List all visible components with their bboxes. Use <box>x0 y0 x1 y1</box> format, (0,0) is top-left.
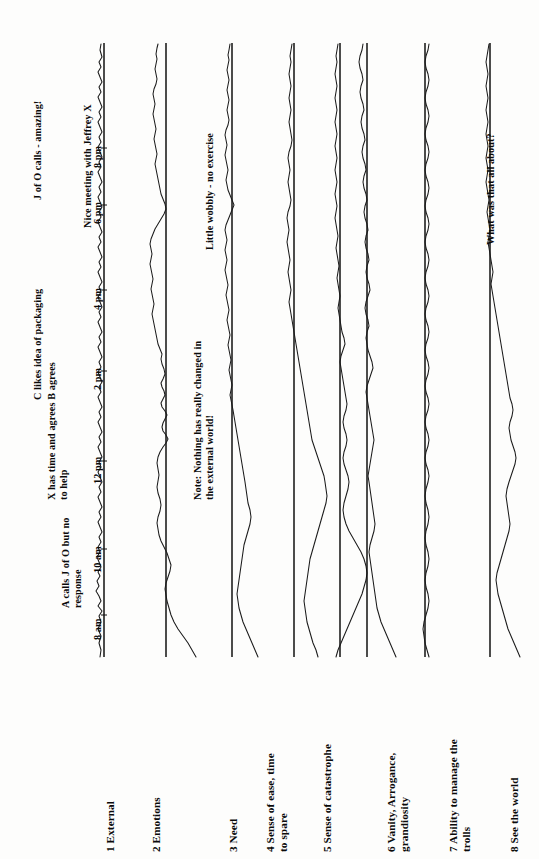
traces-canvas <box>0 0 539 859</box>
tick-label-10am: 10 am <box>92 546 104 573</box>
track-3-group <box>225 43 258 657</box>
track-label-1-external: 1 External <box>104 801 117 852</box>
tick-label-2pm: 2 pm <box>92 368 104 390</box>
annotation-x-has-time-and-agrees: X has time and agrees B agrees to help <box>46 360 69 500</box>
tick-label-8am: 8 am <box>92 618 104 640</box>
track-2-trace <box>150 44 196 657</box>
track-6-trace <box>359 44 396 657</box>
tick-label-8pm: 8 pm <box>92 146 104 168</box>
track-label-4-sense-of-ease: 4 Sense of ease, time to spare <box>264 742 290 852</box>
track-5-trace <box>335 44 367 657</box>
chart-sheet: 8 am 10 am 12 pm 2 pm 4 pm 6 pm 8 pm 1 E… <box>0 0 539 859</box>
tick-label-4pm: 4 pm <box>92 288 104 310</box>
track-4-group <box>287 43 327 657</box>
track-7-group <box>423 43 429 657</box>
track-6-group <box>359 43 396 657</box>
track-label-6-vanity-arrogance: 6 Vanity, Arrogance, grandiosity <box>385 724 411 852</box>
annotation-note-nothing-changed: Note: Nothing has really changed in the … <box>192 340 215 500</box>
track-label-3-need: 3 Need <box>227 819 240 852</box>
annotation-c-likes-idea-of-packaging: C likes idea of packaging <box>32 289 44 400</box>
annotation-j-of-o-calls-amazing: J of O calls - amazing! <box>32 101 44 200</box>
track-label-2-emotions: 2 Emotions <box>150 797 163 852</box>
annotation-nice-meeting-jeffrey-x: Nice meeting with Jeffrey X <box>82 104 94 228</box>
track-5-group <box>335 43 367 657</box>
track-2-group <box>150 43 196 657</box>
annotation-what-was-that-all-about: What was that all about? <box>485 133 497 245</box>
annotation-little-wobbly-no-exercise: Little wobbly - no exercise <box>204 133 216 250</box>
track-3-trace <box>225 44 258 657</box>
track-label-5-sense-of-catastrophe: 5 Sense of catastrophe <box>321 742 334 852</box>
track-label-8-see-the-world: 8 See the world <box>508 742 521 852</box>
tick-label-6pm: 6 pm <box>92 202 104 224</box>
track-7-trace <box>423 44 429 657</box>
track-4-trace <box>287 44 327 657</box>
tick-label-12pm: 12 pm <box>92 457 104 484</box>
track-label-7-ability-manage-trolls: 7 Ability to manage the trolls <box>447 734 473 852</box>
annotation-a-calls-j-of-o: A calls J of O but no response <box>60 488 83 608</box>
